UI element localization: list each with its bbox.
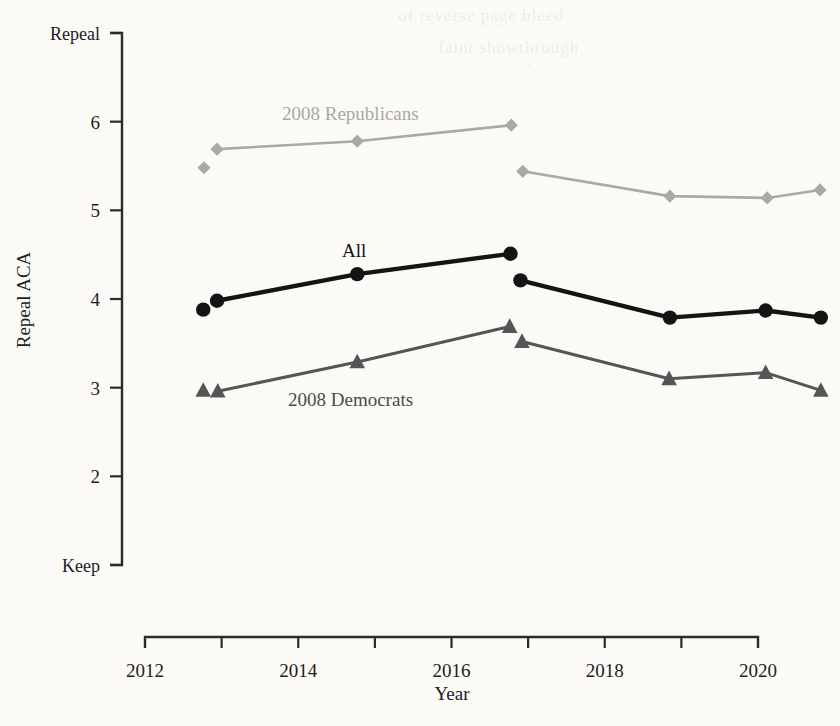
data-point-triangle: [514, 333, 530, 348]
series-2008-republicans: [197, 119, 826, 205]
x-tick-label: 2014: [279, 660, 318, 681]
y-tick-label: Repeal: [50, 24, 100, 44]
x-tick-label: 2012: [126, 660, 164, 681]
data-point-diamond: [197, 161, 210, 174]
y-axis: Keep23456Repeal Repeal ACA: [13, 24, 122, 576]
data-point-diamond: [505, 119, 518, 132]
series-label-all: All: [342, 240, 366, 261]
y-tick-label: 6: [91, 112, 101, 133]
y-tick-label: 4: [91, 289, 101, 310]
data-point-circle: [814, 310, 828, 324]
chart-figure: of reverse page bleed faint showthrough …: [0, 0, 840, 726]
data-point-circle: [210, 294, 224, 308]
x-tick-label: 2020: [739, 660, 777, 681]
y-tick-label: 5: [91, 200, 101, 221]
series-label-democrats: 2008 Democrats: [288, 389, 413, 410]
y-tick-label: 3: [91, 378, 101, 399]
data-point-diamond: [351, 135, 364, 148]
data-point-circle: [503, 247, 517, 261]
x-axis-title: Year: [434, 683, 470, 704]
data-point-diamond: [761, 191, 774, 204]
data-point-diamond: [663, 190, 676, 203]
series-label-republicans: 2008 Republicans: [282, 103, 419, 124]
series-line: [217, 125, 511, 149]
y-tick-label: 2: [91, 466, 101, 487]
x-axis: 20122014201620182020 Year: [126, 637, 777, 704]
series-2008-democrats: [195, 318, 828, 397]
plot-canvas: Keep23456Repeal Repeal ACA 2012201420162…: [0, 0, 840, 726]
y-axis-title: Repeal ACA: [13, 251, 34, 348]
y-tick-label: Keep: [62, 556, 100, 576]
series-line: [218, 326, 510, 391]
series-all: [196, 247, 828, 325]
data-point-circle: [196, 302, 210, 316]
x-tick-label: 2018: [586, 660, 624, 681]
data-point-diamond: [210, 143, 223, 156]
data-point-triangle: [502, 318, 518, 333]
data-point-circle: [350, 267, 364, 281]
data-point-diamond: [516, 165, 529, 178]
data-point-circle: [758, 303, 772, 317]
data-point-circle: [513, 273, 527, 287]
data-point-triangle: [195, 382, 211, 397]
data-point-circle: [663, 310, 677, 324]
x-tick-label: 2016: [433, 660, 471, 681]
data-point-diamond: [813, 183, 826, 196]
